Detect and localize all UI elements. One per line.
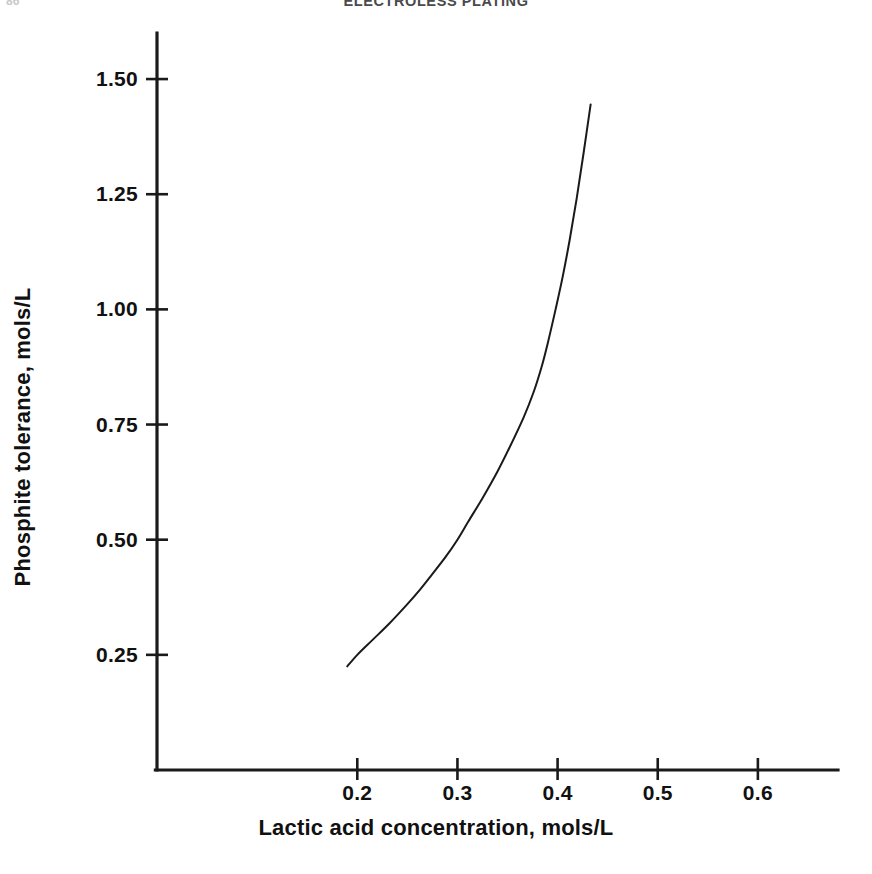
y-tick-label: 1.25 bbox=[60, 182, 138, 206]
y-tick-label: 1.00 bbox=[60, 297, 138, 321]
x-tick-label: 0.5 bbox=[643, 781, 673, 805]
y-axis-title: Phosphite tolerance, mols/L bbox=[0, 0, 46, 874]
x-axis-title: Lactic acid concentration, mols/L bbox=[0, 815, 872, 841]
x-tick-label: 0.4 bbox=[543, 781, 573, 805]
data-series bbox=[347, 104, 590, 666]
x-tick-label: 0.6 bbox=[743, 781, 773, 805]
y-tick-label: 0.25 bbox=[60, 643, 138, 667]
series-line bbox=[347, 104, 590, 666]
chart-figure: 0.250.500.751.001.251.50 0.20.30.40.50.6… bbox=[0, 0, 872, 874]
x-tick-label: 0.2 bbox=[342, 781, 372, 805]
y-tick-label: 1.50 bbox=[60, 67, 138, 91]
x-tick-label: 0.3 bbox=[442, 781, 472, 805]
y-tick-label: 0.75 bbox=[60, 413, 138, 437]
y-tick-label: 0.50 bbox=[60, 528, 138, 552]
axis-ticks bbox=[146, 79, 758, 780]
axes-group bbox=[155, 33, 838, 770]
plot-canvas bbox=[0, 0, 872, 874]
